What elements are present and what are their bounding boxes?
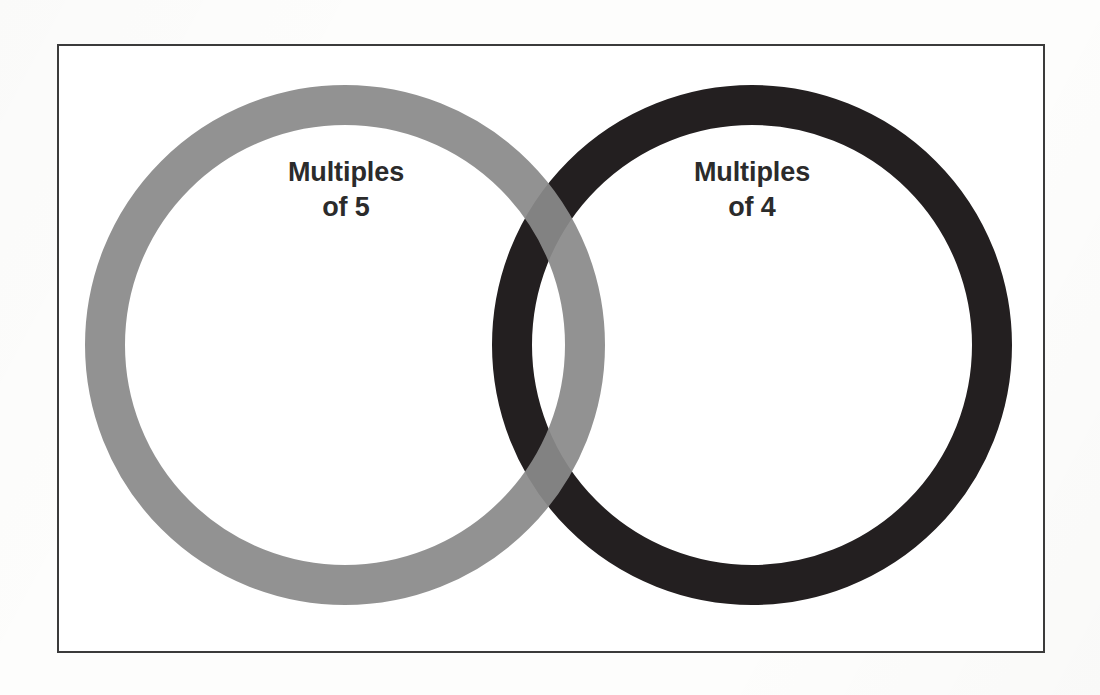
set-label-multiples-of-5: Multiples of 5 xyxy=(196,155,496,224)
set-label-multiples-of-4: Multiples of 4 xyxy=(602,155,902,224)
venn-diagram-canvas: Multiples of 5 Multiples of 4 xyxy=(0,0,1100,695)
venn-circles xyxy=(0,0,1100,695)
